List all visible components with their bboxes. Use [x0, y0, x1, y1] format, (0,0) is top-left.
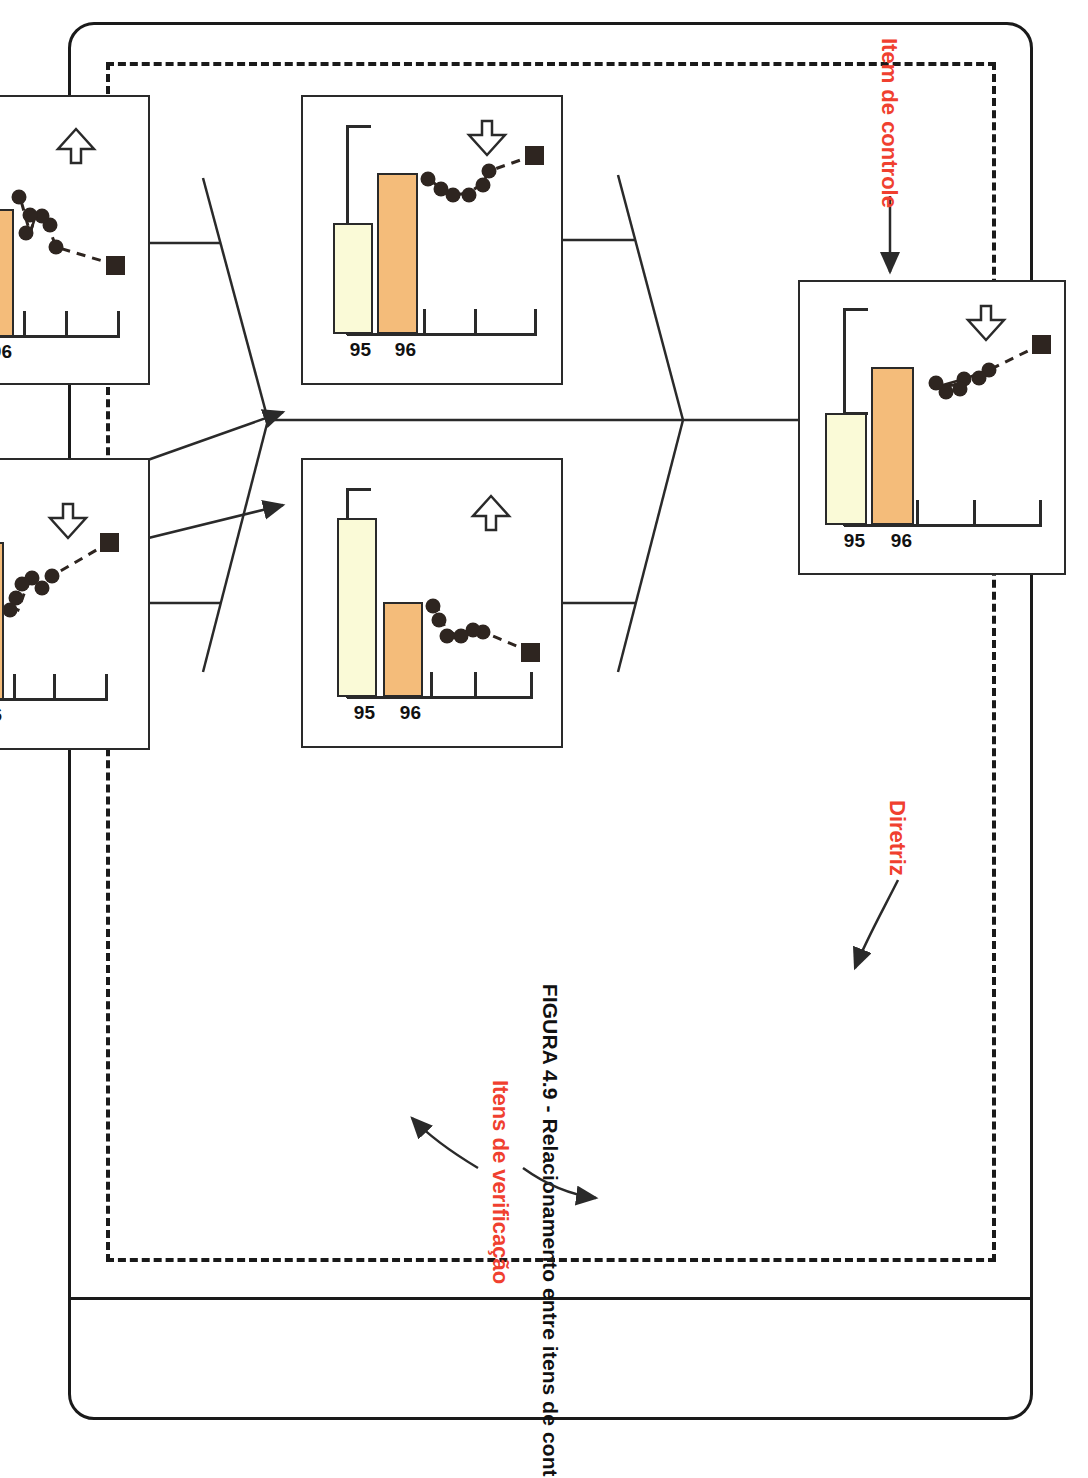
chart-tick — [117, 311, 120, 337]
bar-95 — [333, 223, 373, 334]
bar-95 — [825, 413, 867, 525]
chart-tick — [65, 311, 68, 337]
annotation-item-de-controle: Item de controle — [876, 38, 902, 208]
panel-mid-right[interactable]: 96 95 — [301, 458, 563, 748]
chart-axis-left-stub — [844, 308, 868, 311]
chart-tick — [916, 500, 919, 526]
chart-tick — [534, 309, 537, 335]
bar-label-96: 96 — [400, 703, 421, 722]
mini-chart: 96 95 — [303, 460, 561, 746]
trend-line — [0, 97, 148, 387]
mini-chart: 96 95 — [0, 97, 148, 383]
figure-page: FIGURA 4.9 - Relacionamento entre itens … — [0, 0, 1088, 1478]
chart-value-axis — [347, 333, 537, 336]
bar-label-95: 95 — [350, 340, 371, 359]
chart-tick — [530, 672, 533, 698]
bar-95 — [337, 518, 377, 697]
chart-tick — [105, 674, 108, 700]
chart-tick — [1039, 500, 1042, 526]
bar-96 — [377, 173, 418, 334]
bar-label-96: 96 — [0, 705, 2, 724]
chart-tick — [973, 500, 976, 526]
bar-96 — [0, 209, 14, 337]
annotation-itens-de-verificacao: Itens de verificação — [487, 1080, 513, 1284]
mini-chart: 96 95 — [303, 97, 561, 383]
mini-chart: 96 95 — [800, 282, 1064, 573]
chart-tick — [13, 674, 16, 700]
panel-mid-left[interactable]: 96 95 — [301, 95, 563, 385]
chart-axis-left-stub — [347, 488, 371, 491]
bar-label-96: 96 — [891, 531, 912, 550]
chart-tick — [423, 309, 426, 335]
diagram-stage: FIGURA 4.9 - Relacionamento entre itens … — [0, 0, 1088, 1478]
panel-bottom-left[interactable]: 96 95 — [0, 95, 150, 385]
bar-label-96: 96 — [395, 340, 416, 359]
bar-label-95: 95 — [844, 531, 865, 550]
chart-tick — [23, 311, 26, 337]
bar-label-96: 96 — [0, 342, 12, 361]
bar-96 — [383, 602, 423, 697]
panel-bottom-right[interactable]: 96 95 — [0, 458, 150, 750]
chart-tick — [474, 672, 477, 698]
chart-value-axis — [0, 335, 120, 338]
bar-96 — [871, 367, 914, 525]
bar-96 — [0, 542, 4, 700]
chart-tick — [53, 674, 56, 700]
mini-chart: 96 95 — [0, 460, 148, 748]
bar-label-95: 95 — [354, 703, 375, 722]
figure-caption: FIGURA 4.9 - Relacionamento entre itens … — [68, 1305, 1033, 1415]
chart-axis-left-stub — [347, 125, 371, 128]
trend-line — [0, 460, 148, 752]
chart-tick — [430, 672, 433, 698]
chart-tick — [474, 309, 477, 335]
annotation-diretriz: Diretriz — [884, 800, 910, 876]
panel-item-de-controle[interactable]: 96 95 — [798, 280, 1066, 575]
